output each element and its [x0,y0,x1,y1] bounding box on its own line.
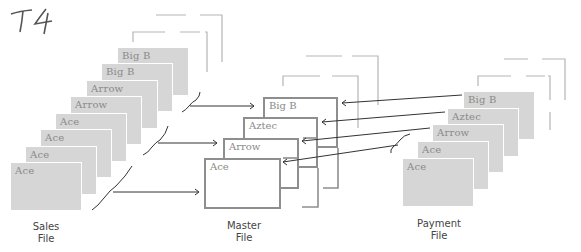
file-matching-diagram: T4 Big B Big B Arrow Arrow Ace Ace Ace A… [0,0,581,252]
payment-to-master-arrows [283,95,462,165]
sales-to-master-arrows [92,92,254,210]
connector-lines [0,0,581,252]
